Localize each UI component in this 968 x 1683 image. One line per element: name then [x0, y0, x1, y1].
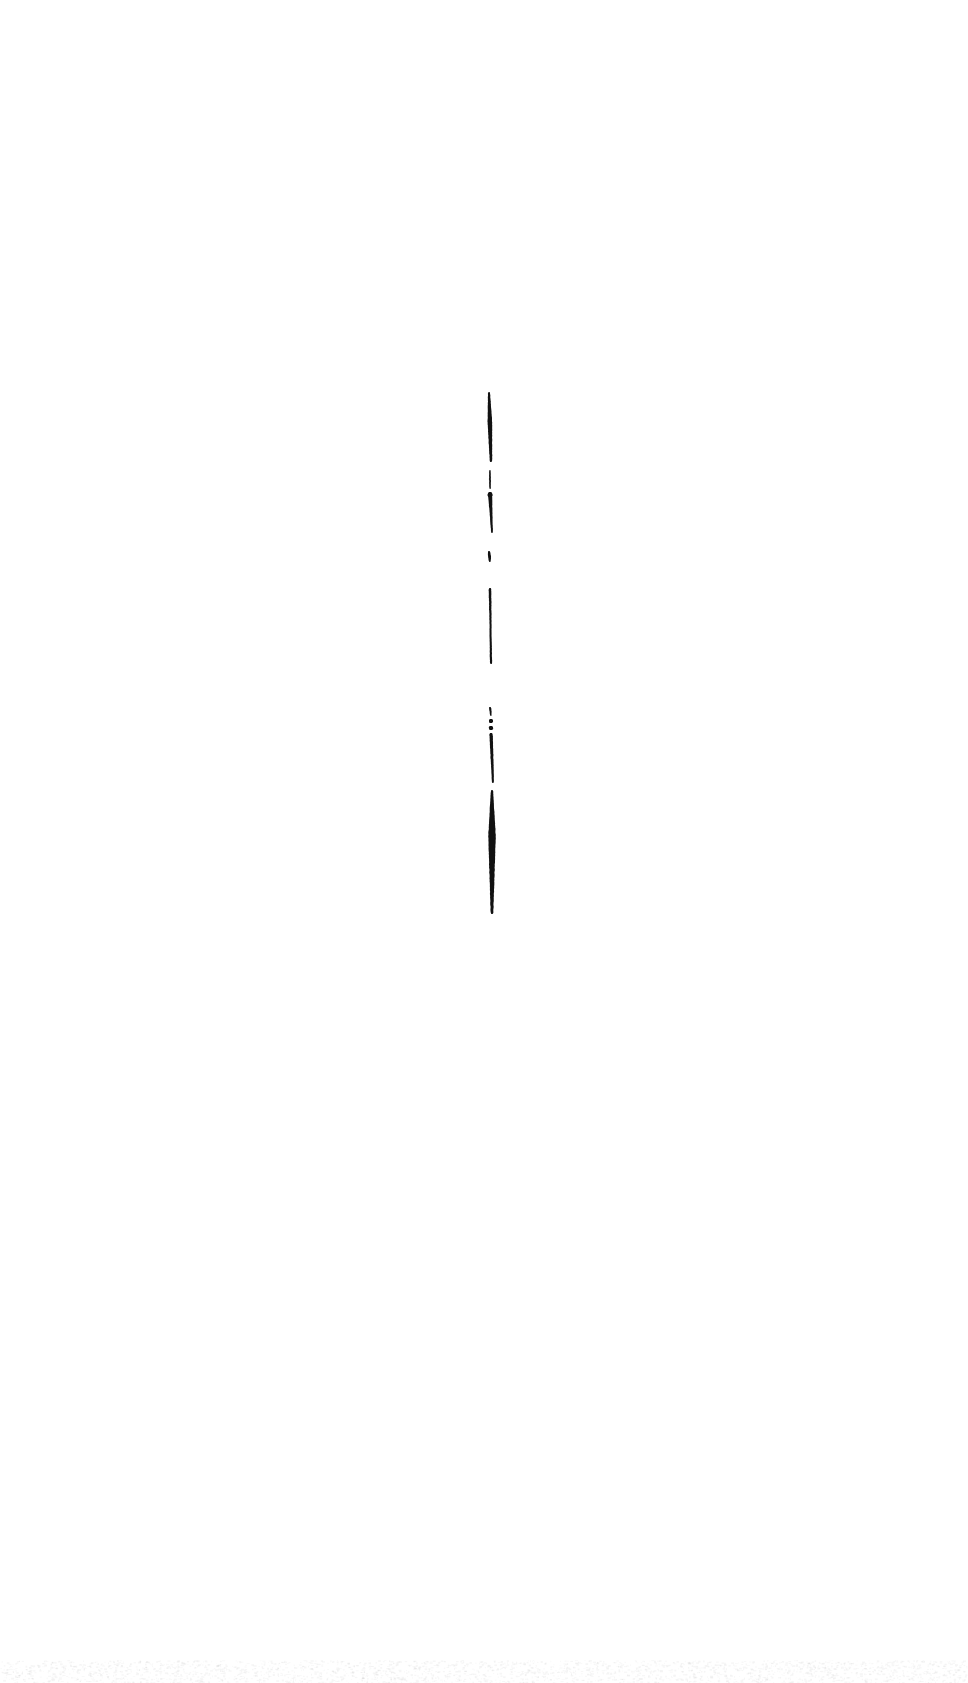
scanned-page: Blank scanned page with a single broken … [0, 0, 968, 1683]
ink-stroke-artwork [0, 0, 968, 1683]
